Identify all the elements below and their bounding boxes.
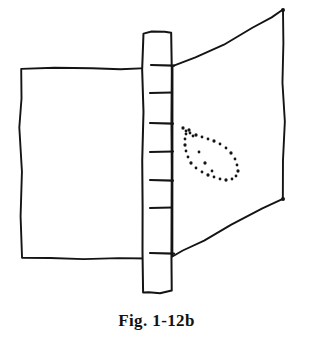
center-post-tick-1 xyxy=(151,65,174,66)
marking-dot xyxy=(206,173,209,176)
marking-dot xyxy=(185,133,188,136)
dotted-marking-group xyxy=(181,126,239,181)
right-panel-top-corner-node xyxy=(281,8,285,12)
marking-dot xyxy=(234,158,237,161)
marking-dot xyxy=(185,150,188,153)
marking-dot xyxy=(184,138,187,141)
marking-dot xyxy=(225,147,228,150)
center-post-tick-3 xyxy=(150,123,173,124)
marking-dot xyxy=(212,139,215,142)
marking-dot xyxy=(181,126,184,129)
center-post-tick-2 xyxy=(150,93,172,94)
drawing-area xyxy=(0,0,313,302)
center-post-tick-6 xyxy=(150,208,172,209)
marking-dot xyxy=(189,161,192,164)
marking-dot xyxy=(189,132,192,135)
marking-dot xyxy=(219,143,222,146)
ink-layer xyxy=(19,8,285,293)
marking-dot xyxy=(203,161,206,164)
line-drawing-svg xyxy=(0,0,313,302)
marking-dot xyxy=(194,133,197,136)
marking-dot xyxy=(187,156,190,159)
marking-dot xyxy=(231,178,234,181)
marking-dot xyxy=(192,135,195,138)
left-panel-outline xyxy=(19,68,147,259)
marking-dot xyxy=(207,138,210,141)
marking-dot xyxy=(236,169,239,172)
marking-dot xyxy=(185,130,188,133)
marking-dot xyxy=(211,170,214,173)
center-post-tick-5 xyxy=(150,180,173,181)
marking-dot xyxy=(229,151,232,154)
marking-dot xyxy=(236,164,239,167)
marking-dot xyxy=(187,128,190,131)
marking-dot xyxy=(195,167,198,170)
figure-caption-block: Fig. 1-12b xyxy=(0,302,313,340)
marking-dot xyxy=(224,178,227,181)
marking-dot xyxy=(198,151,201,154)
marking-dot xyxy=(213,176,216,179)
marking-dot xyxy=(219,178,222,181)
figure-caption-label: Fig. 1-12b xyxy=(118,311,195,331)
right-panel-bottom-corner-node xyxy=(281,197,285,201)
marking-dot xyxy=(201,171,204,174)
marking-dot xyxy=(235,175,238,178)
center-post-tick-4 xyxy=(150,152,173,153)
figure-root: Fig. 1-12b xyxy=(0,0,313,340)
marking-dot xyxy=(201,136,204,139)
center-post-tick-7 xyxy=(150,253,174,254)
marking-dot xyxy=(183,143,186,146)
